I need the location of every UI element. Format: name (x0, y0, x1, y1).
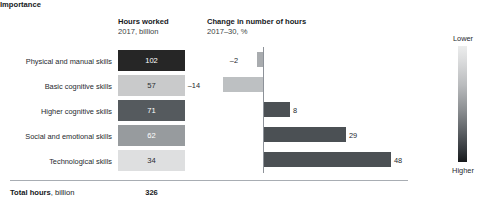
change-value-label: –14 (170, 81, 200, 90)
column-header-hours-title: Hours worked (118, 17, 169, 27)
hours-worked-bar: 34 (118, 150, 185, 171)
total-hours-label-rest: , billion (51, 188, 75, 197)
column-header-change-title: Change in number of hours (207, 17, 306, 27)
change-bar (264, 127, 346, 142)
change-bar (264, 152, 391, 167)
category-label: Social and emotional skills (0, 132, 112, 141)
change-value-label: 29 (349, 131, 357, 140)
hours-worked-value: 62 (147, 131, 155, 140)
change-bar (257, 52, 263, 67)
category-label: Higher cognitive skills (0, 107, 112, 116)
total-hours-value: 326 (118, 188, 185, 197)
total-hours-label-bold: Total hours (10, 188, 51, 197)
legend-label-higher: Higher (440, 166, 486, 175)
change-value-label: 8 (293, 106, 297, 115)
hours-worked-value: 34 (147, 156, 155, 165)
total-hours-label: Total hours, billion (10, 188, 74, 197)
hours-worked-value: 71 (147, 106, 155, 115)
change-bar (223, 77, 263, 92)
column-header-hours-worked: Hours worked 2017, billion (118, 17, 169, 36)
change-bar (264, 102, 290, 117)
hours-worked-bar: 102 (118, 50, 185, 71)
total-divider-rule (10, 180, 408, 181)
hours-worked-bar: 62 (118, 125, 185, 146)
category-label: Physical and manual skills (0, 57, 112, 66)
importance-gradient-bar (458, 46, 467, 162)
legend-label-lower: Lower (440, 34, 486, 43)
legend-title-importance: Importance (0, 0, 491, 9)
column-header-hours-subtitle: 2017, billion (118, 27, 169, 37)
hours-worked-value: 57 (147, 81, 155, 90)
column-header-change-subtitle: 2017–30, % (207, 27, 306, 37)
chart-figure: Hours worked 2017, billion Change in num… (0, 0, 491, 212)
category-label: Basic cognitive skills (0, 82, 112, 91)
hours-worked-bar: 71 (118, 100, 185, 121)
column-header-change: Change in number of hours 2017–30, % (207, 17, 306, 36)
hours-worked-value: 102 (145, 56, 158, 65)
change-value-label: –2 (208, 56, 238, 65)
change-value-label: 48 (394, 156, 402, 165)
category-label: Technological skills (0, 157, 112, 166)
